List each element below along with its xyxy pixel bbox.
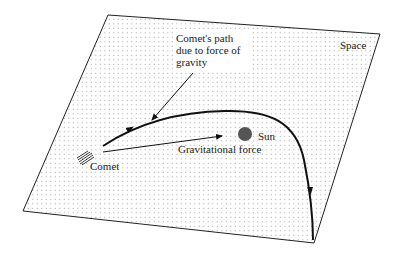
path-label: Comet's path due to force of gravity bbox=[174, 31, 250, 70]
sun-icon bbox=[238, 127, 252, 141]
path-label-line3: gravity bbox=[176, 56, 208, 68]
sun-label: Sun bbox=[258, 130, 276, 142]
comet-label: Comet bbox=[90, 160, 119, 172]
comet-gravity-diagram: Comet's path due to force of gravity Sun… bbox=[0, 0, 401, 263]
path-label-line2: due to force of bbox=[176, 44, 241, 56]
space-label: Space bbox=[340, 39, 366, 51]
path-label-line1: Comet's path bbox=[176, 32, 234, 44]
force-label: Gravitational force bbox=[178, 143, 261, 155]
